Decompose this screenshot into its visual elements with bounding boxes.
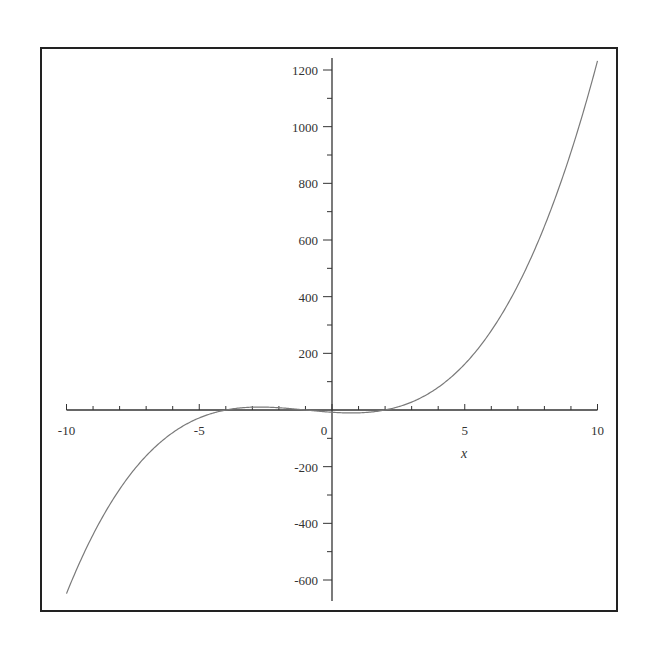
y-tick-label: -400 xyxy=(294,516,318,531)
plot-area: -10-50510-600-400-2002004006008001000120… xyxy=(0,0,650,649)
y-tick-label: 1200 xyxy=(292,63,318,78)
plot-frame xyxy=(41,48,617,611)
x-tick-label: 10 xyxy=(591,423,604,438)
x-axis-label: x xyxy=(460,446,468,461)
axes xyxy=(67,58,598,601)
x-tick-label: -10 xyxy=(58,423,75,438)
y-tick-label: 1000 xyxy=(292,120,318,135)
y-tick-label: 800 xyxy=(299,176,319,191)
x-tick-label: 0 xyxy=(321,423,328,438)
x-tick-label: 5 xyxy=(462,423,469,438)
x-tick-label: -5 xyxy=(194,423,205,438)
y-tick-label: 200 xyxy=(299,346,319,361)
y-tick-label: -600 xyxy=(294,573,318,588)
y-tick-label: -200 xyxy=(294,460,318,475)
y-tick-label: 400 xyxy=(299,290,319,305)
y-tick-label: 600 xyxy=(299,233,319,248)
